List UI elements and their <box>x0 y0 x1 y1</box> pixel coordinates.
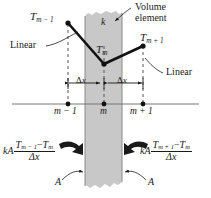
expression-heat-flux-left: kA Tm − 1−Tm Δx <box>3 140 55 163</box>
label-area-right: A <box>148 177 154 188</box>
profile-point-m <box>101 61 106 66</box>
figure-canvas <box>0 0 211 198</box>
heat-flux-arrow-left <box>59 142 83 155</box>
label-delta-x-left: Δx <box>76 76 86 85</box>
flux-left-denominator: Δx <box>14 152 55 163</box>
heat-conduction-figure: Tm − 1 Tm Tm + 1 k Volume element Linear… <box>0 0 211 198</box>
label-node-m: m <box>100 107 107 117</box>
flux-right-num-T1-sub: m + 1 <box>158 143 174 150</box>
leader-linear-left <box>46 32 78 46</box>
label-T-left-sub: m − 1 <box>36 16 53 24</box>
profile-point-m-minus-1 <box>65 20 70 25</box>
label-T-center-sub: m <box>102 49 107 57</box>
label-node-m-plus-1: m + 1 <box>130 107 153 117</box>
flux-right-fraction: Tm + 1−Tm Δx <box>151 140 192 163</box>
expression-heat-flux-right: kA Tm + 1−Tm Δx <box>140 140 192 163</box>
label-delta-x-right-var: x <box>123 75 127 85</box>
label-volume-element-line1: Volume <box>135 2 167 13</box>
flux-right-num-T2-sub: m <box>185 143 190 150</box>
label-thermal-conductivity: k <box>101 17 105 28</box>
volume-element-band <box>85 11 122 188</box>
label-volume-element: Volume element <box>135 2 167 23</box>
leader-linear-right <box>145 58 163 73</box>
leader-area-left <box>62 171 83 180</box>
label-temperature-m-minus-1: Tm − 1 <box>30 11 54 24</box>
label-temperature-m: Tm <box>96 44 107 57</box>
label-delta-x-left-var: x <box>82 75 86 85</box>
leader-area-right <box>125 171 146 180</box>
label-delta-x-right: Δx <box>117 76 127 85</box>
label-T-right-sub: m + 1 <box>146 37 163 45</box>
flux-right-denominator: Δx <box>151 152 192 163</box>
flux-left-fraction: Tm − 1−Tm Δx <box>14 140 55 163</box>
label-area-left: A <box>55 177 61 188</box>
label-temperature-m-plus-1: Tm + 1 <box>140 32 164 45</box>
label-volume-element-line2: element <box>135 13 167 24</box>
flux-left-num-T1-sub: m − 1 <box>21 143 37 150</box>
label-node-m-minus-1: m − 1 <box>54 107 77 117</box>
label-linear-right: Linear <box>166 67 192 78</box>
label-linear-left: Linear <box>10 40 36 51</box>
flux-left-num-T2-sub: m <box>48 143 53 150</box>
